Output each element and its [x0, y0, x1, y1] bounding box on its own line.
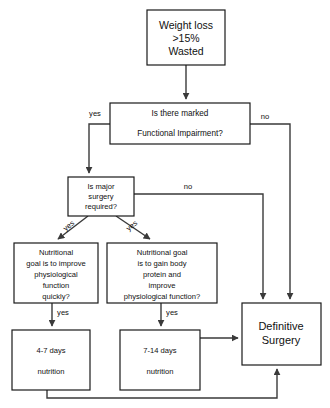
edge-impairment-yes [89, 124, 110, 173]
node-weight-loss-line-2: >15% [172, 32, 199, 44]
node-goal-gain-line-3: protein and [143, 270, 181, 279]
node-goal-gain-line-2: is to gain body [138, 259, 187, 268]
node-weight-loss[interactable]: Weight loss >15% Wasted [147, 10, 225, 65]
node-goal-gain-line-4: improve [148, 281, 175, 290]
flowchart-container: Weight loss >15% Wasted Is there marked … [0, 0, 330, 408]
node-nutrition-4-7-days-box [12, 330, 90, 390]
edge-label-major-surgery-no: no [184, 182, 192, 191]
node-definitive-surgery[interactable]: Definitive Surgery [242, 303, 321, 365]
node-nutrition-7-14-line-2: nutrition [146, 367, 173, 376]
node-goal-improve-function[interactable]: Nutritional goal is to improve physiolog… [14, 243, 98, 303]
node-nutrition-4-7-line-1: 4-7 days [36, 346, 65, 355]
node-nutrition-4-7-line-2: nutrition [37, 367, 64, 376]
node-major-surgery-line-3: required? [85, 202, 117, 211]
edge-impairment-no [250, 124, 290, 299]
node-functional-impairment-line-2: Functional Impairment? [137, 129, 223, 138]
node-definitive-surgery-line-2: Surgery [262, 334, 301, 346]
node-functional-impairment-line-1: Is there marked [152, 109, 209, 118]
node-functional-impairment[interactable]: Is there marked Functional Impairment? [110, 103, 250, 144]
node-goal-gain-line-5: physiological function? [124, 292, 200, 301]
node-nutrition-7-14-days-box [120, 330, 200, 390]
edge-label-impairment-no: no [261, 112, 269, 121]
edge-label-impairment-yes: yes [89, 109, 101, 118]
node-weight-loss-line-3: Wasted [168, 45, 203, 57]
node-nutrition-7-14-days[interactable]: 7-14 days nutrition [120, 330, 200, 390]
node-major-surgery-line-2: surgery [88, 192, 114, 201]
node-goal-improve-line-5: quickly? [42, 292, 69, 301]
node-goal-gain-line-1: Nutritional goal [137, 248, 188, 257]
node-nutrition-7-14-line-1: 7-14 days [143, 346, 177, 355]
node-goal-improve-line-4: function [43, 281, 70, 290]
node-major-surgery[interactable]: Is major surgery required? [68, 177, 134, 216]
edge-label-major-surgery-yes-left: yes [61, 218, 76, 233]
flowchart-canvas: Weight loss >15% Wasted Is there marked … [0, 0, 330, 408]
edge-label-goal-improve-yes: yes [57, 308, 69, 317]
node-nutrition-4-7-days[interactable]: 4-7 days nutrition [12, 330, 90, 390]
node-goal-gain-protein[interactable]: Nutritional goal is to gain body protein… [107, 243, 217, 303]
node-definitive-surgery-line-1: Definitive [258, 320, 303, 332]
node-goal-improve-line-1: Nutritional [39, 248, 73, 257]
edge-label-goal-gain-yes: yes [166, 308, 178, 317]
node-major-surgery-line-1: Is major [87, 182, 114, 191]
node-goal-improve-line-3: physiological [34, 270, 78, 279]
node-goal-improve-line-2: goal is to improve [26, 259, 86, 268]
node-weight-loss-line-1: Weight loss [159, 19, 213, 31]
